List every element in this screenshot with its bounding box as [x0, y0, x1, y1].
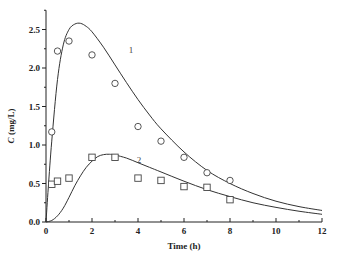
data-point-circle — [66, 38, 72, 44]
data-points — [49, 38, 234, 203]
x-tick-label: 4 — [136, 226, 141, 236]
data-point-circle — [227, 177, 233, 183]
curve-label-1: 1 — [129, 45, 134, 55]
data-point-square — [54, 178, 60, 184]
data-point-circle — [204, 170, 210, 176]
y-tick-label: 2.5 — [29, 25, 41, 35]
axes: 0246810120.00.51.01.52.02.5 — [29, 10, 327, 236]
data-point-square — [227, 196, 233, 202]
y-tick-label: 1.5 — [29, 102, 41, 112]
x-tick-label: 8 — [228, 226, 233, 236]
x-tick-label: 6 — [182, 226, 187, 236]
y-axis-title-unit: (mg/L) — [6, 109, 16, 138]
data-point-square — [204, 184, 210, 190]
data-point-circle — [112, 80, 118, 86]
data-point-circle — [89, 52, 95, 58]
y-tick-label: 0.5 — [29, 179, 41, 189]
y-tick-label: 1.0 — [29, 140, 41, 150]
data-point-square — [181, 183, 187, 189]
y-tick-label: 2.0 — [29, 63, 41, 73]
data-point-circle — [181, 154, 187, 160]
data-point-circle — [49, 129, 55, 135]
data-point-square — [158, 177, 164, 183]
y-tick-label: 0.0 — [29, 217, 41, 227]
pharmacokinetic-chart: 0246810120.00.51.01.52.02.5 12 Time (h) … — [0, 0, 337, 262]
data-point-circle — [135, 123, 141, 129]
data-point-square — [135, 175, 141, 181]
data-point-square — [112, 154, 118, 160]
x-tick-label: 10 — [272, 226, 282, 236]
data-point-circle — [158, 138, 164, 144]
x-tick-label: 0 — [44, 226, 49, 236]
curve-labels: 12 — [129, 45, 142, 166]
x-axis-title: Time (h) — [167, 241, 200, 251]
fit-curve-1 — [46, 23, 322, 222]
curve-label-2: 2 — [137, 155, 142, 165]
data-point-square — [66, 175, 72, 181]
data-point-circle — [54, 48, 60, 54]
fit-curves — [46, 23, 322, 222]
x-tick-label: 12 — [318, 226, 328, 236]
x-tick-label: 2 — [90, 226, 95, 236]
data-point-square — [89, 154, 95, 160]
y-axis-title: C (mg/L) — [6, 109, 16, 144]
